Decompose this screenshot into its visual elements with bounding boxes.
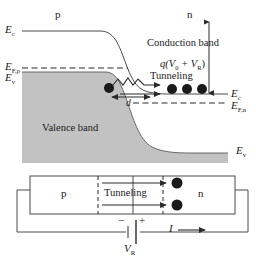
- electron-dot-n-3: [197, 84, 207, 94]
- plus-VR: + V: [178, 58, 197, 69]
- current-label: I: [169, 223, 173, 234]
- Ev-right-symbol: E: [236, 144, 243, 156]
- Ec-left-subscript: c: [12, 30, 15, 37]
- Ec-right-symbol: E: [231, 87, 238, 99]
- barrier-width-label: d: [126, 99, 131, 109]
- device-electron-dot-bottom: [172, 200, 183, 211]
- device-label-n: n: [198, 188, 204, 199]
- paren-open: (V: [165, 58, 175, 69]
- Ev-right-subscript: v: [243, 151, 246, 158]
- device-tunneling-label: Tunneling: [104, 188, 147, 199]
- circuit-wire-right: [140, 190, 248, 232]
- region-label-p: p: [55, 9, 61, 20]
- figure-root: p n Ec EF,p Ev Ec EF,n Ev Conduction ban…: [0, 0, 269, 257]
- VR-sub: R: [131, 249, 136, 256]
- energy-label-Ev-left: Ev: [5, 72, 15, 86]
- Ev-left-subscript: v: [12, 78, 15, 85]
- Ec-left-symbol: E: [5, 23, 12, 35]
- energy-label-Ev-right: Ev: [236, 145, 246, 159]
- valence-band-fill: [22, 72, 228, 163]
- valence-band-annotation: Valence band: [42, 123, 98, 134]
- VR-symbol: V: [124, 242, 131, 254]
- tunneling-annotation-band: Tunneling: [150, 71, 193, 82]
- battery-negative-label: −: [118, 215, 124, 226]
- electron-dot-n-2: [182, 84, 192, 94]
- region-label-n: n: [187, 9, 193, 20]
- battery-voltage-label: VR: [124, 243, 135, 257]
- electron-dot-valence: [104, 83, 114, 93]
- paren-close: ): [202, 58, 206, 69]
- Ev-left-symbol: E: [5, 71, 12, 83]
- battery-positive-label: +: [139, 215, 145, 226]
- energy-label-EFn-right: EF,n: [231, 100, 246, 114]
- conduction-band-annotation: Conduction band: [147, 38, 219, 49]
- EFn-symbol: E: [231, 99, 238, 111]
- energy-label-Ec-left: Ec: [5, 24, 15, 38]
- device-label-p: p: [61, 188, 67, 199]
- device-electron-dot-top: [172, 178, 183, 189]
- figure-canvas: [0, 0, 269, 257]
- EFn-subscript: F,n: [238, 106, 246, 113]
- electron-dot-n-1: [167, 84, 177, 94]
